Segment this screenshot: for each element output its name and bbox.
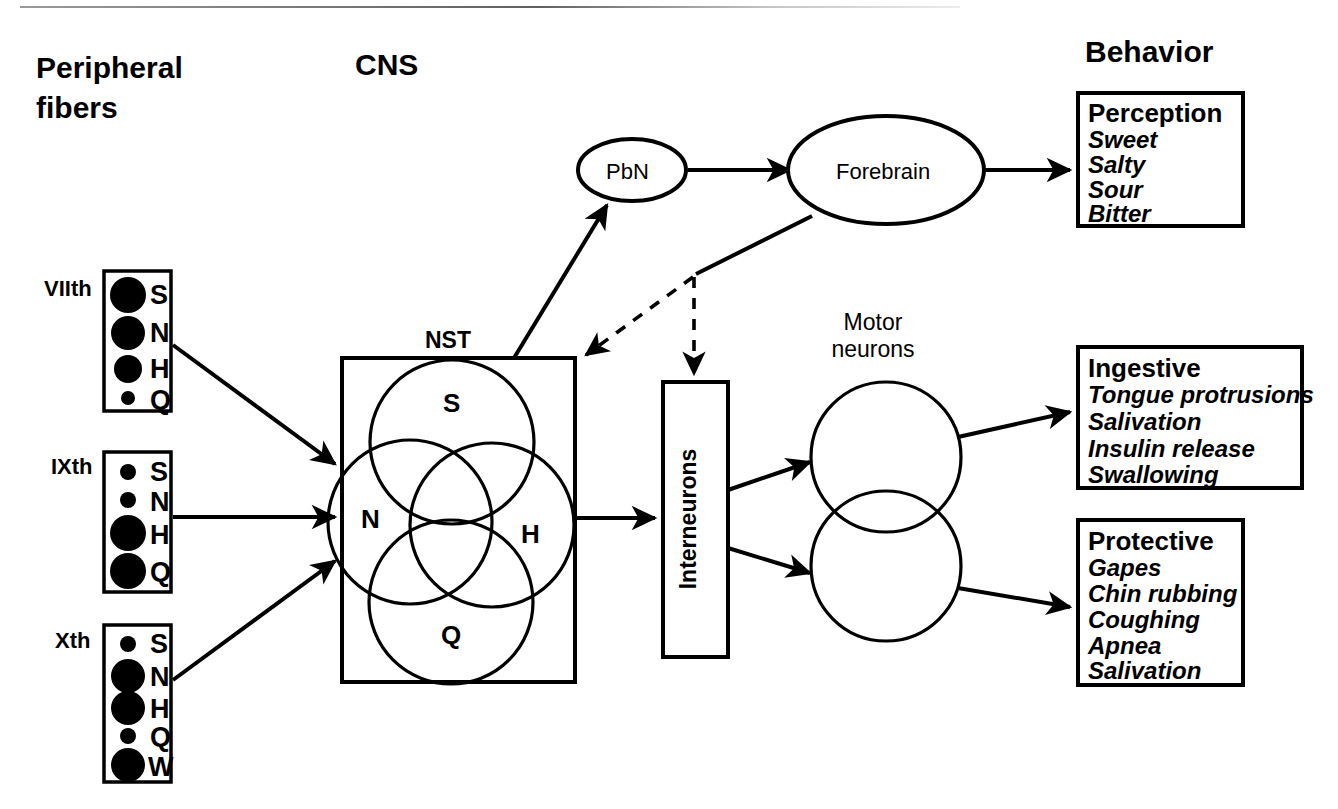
- fiber-label-ixth-n: N: [150, 487, 170, 517]
- fiber-label-xth-h: H: [150, 694, 170, 724]
- nerve-group-viith[interactable]: VIIth S N H Q: [44, 271, 171, 415]
- fiber-dot-ixth-h: [110, 515, 146, 551]
- nst-circle-label-n: N: [361, 504, 380, 534]
- arrow-nst-to-pbn: [514, 205, 607, 358]
- column-heading-peripheral-line1: Peripheral: [36, 51, 183, 84]
- arrow-motor-to-protective: [958, 588, 1070, 607]
- behavior-item-salty: Salty: [1088, 151, 1147, 178]
- diagram-canvas: Peripheral fibers CNS Behavior VIIth S N…: [0, 0, 1338, 809]
- behavior-item-chin-rubbing: Chin rubbing: [1088, 580, 1238, 607]
- behavior-item-tongue-protrusions: Tongue protrusions: [1088, 381, 1314, 408]
- fiber-dot-xth-n: [111, 659, 145, 693]
- fiber-label-xth-w: W: [148, 752, 174, 782]
- nerve-label-xth: Xth: [55, 628, 90, 653]
- column-heading-behavior: Behavior: [1085, 35, 1214, 68]
- fiber-dot-ixth-n: [120, 492, 136, 508]
- forebrain-label: Forebrain: [836, 159, 930, 184]
- motor-neuron-circle-protective: [811, 491, 961, 641]
- column-heading-cns: CNS: [355, 48, 418, 81]
- behavior-item-coughing: Coughing: [1088, 606, 1200, 633]
- fiber-label-ixth-q: Q: [150, 557, 171, 587]
- fiber-dot-xth-h: [111, 691, 145, 725]
- motor-neurons-label-line1: Motor: [844, 309, 903, 335]
- column-heading-peripheral-line2: fibers: [36, 91, 118, 124]
- nst-circle-label-q: Q: [441, 620, 461, 650]
- behavior-heading-protective: Protective: [1088, 526, 1214, 556]
- nst-label: NST: [425, 327, 471, 353]
- fiber-label-viith-q: Q: [150, 385, 171, 415]
- behavior-item-apnea: Apnea: [1087, 632, 1161, 659]
- arrow-feedback-to-nst: [586, 277, 693, 355]
- fiber-dot-xth-s: [120, 636, 136, 652]
- fiber-dot-viith-q: [121, 391, 135, 405]
- pbn-label: PbN: [606, 159, 649, 184]
- fiber-dot-xth-q: [120, 728, 136, 744]
- fiber-dot-viith-h: [114, 355, 142, 383]
- fiber-label-xth-q: Q: [150, 722, 171, 752]
- motor-neurons-label-line2: neurons: [831, 336, 914, 362]
- fiber-dot-ixth-q: [110, 553, 146, 589]
- nerve-group-xth[interactable]: Xth S N H Q W: [55, 625, 174, 782]
- fiber-dot-viith-n: [111, 316, 145, 350]
- behavior-item-bitter: Bitter: [1088, 200, 1152, 227]
- arrow-viith-to-nst: [173, 345, 335, 464]
- arrow-interneurons-to-motor-top: [728, 462, 810, 490]
- fiber-label-xth-n: N: [150, 662, 170, 692]
- fiber-label-viith-h: H: [150, 354, 170, 384]
- behavior-item-sour: Sour: [1088, 176, 1144, 203]
- nerve-group-ixth[interactable]: IXth S N H Q: [51, 452, 171, 592]
- fiber-label-ixth-h: H: [150, 520, 170, 550]
- behavior-item-insulin-release: Insulin release: [1088, 435, 1255, 462]
- fiber-label-viith-n: N: [150, 318, 170, 348]
- interneurons-label: Interneurons: [675, 449, 701, 590]
- fiber-dot-viith-s: [110, 277, 146, 313]
- nerve-label-viith: VIIth: [44, 276, 92, 301]
- fiber-label-viith-s: S: [150, 280, 168, 310]
- nst-circle-label-h: H: [521, 519, 540, 549]
- fiber-label-xth-s: S: [150, 629, 168, 659]
- fiber-dot-xth-w: [111, 748, 145, 782]
- fiber-dot-ixth-s: [120, 464, 136, 480]
- taste-pathway-diagram: Peripheral fibers CNS Behavior VIIth S N…: [0, 0, 1338, 809]
- arrow-xth-to-nst: [173, 561, 335, 680]
- behavior-item-sweet: Sweet: [1088, 126, 1158, 153]
- behavior-item-salivation-protective: Salivation: [1088, 657, 1201, 684]
- nerve-label-ixth: IXth: [51, 454, 93, 479]
- arrow-interneurons-to-motor-bottom: [728, 548, 810, 573]
- motor-neuron-circle-ingestive: [811, 382, 961, 532]
- line-forebrain-descending-stem: [696, 216, 812, 274]
- behavior-heading-ingestive: Ingestive: [1088, 353, 1201, 383]
- behavior-item-salivation-ingestive: Salivation: [1088, 408, 1201, 435]
- behavior-item-swallowing: Swallowing: [1088, 461, 1219, 488]
- behavior-heading-perception: Perception: [1088, 98, 1222, 128]
- nst-circle-label-s: S: [443, 388, 460, 418]
- behavior-item-gapes: Gapes: [1088, 554, 1161, 581]
- fiber-label-ixth-s: S: [150, 457, 168, 487]
- arrow-motor-to-ingestive: [958, 412, 1070, 437]
